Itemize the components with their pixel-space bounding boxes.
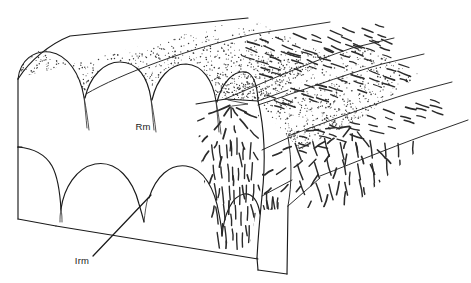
block-diagram-svg: Rm Irm [0,0,471,283]
label-rm: Rm [135,121,150,132]
figure-container: Rm Irm [0,0,471,283]
label-irm: Irm [75,255,89,266]
figure-background [0,0,471,283]
